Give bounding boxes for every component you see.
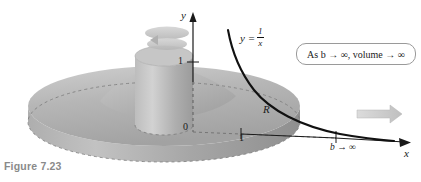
expansion-block-arrow-icon	[357, 105, 402, 123]
rotation-indicator-upper-disc	[145, 27, 189, 40]
y-tick-label-one: 1	[178, 56, 183, 66]
curve-equation-label: y = 1 x	[240, 28, 264, 49]
limit-label-b-to-infinity: b → ∞	[330, 143, 356, 153]
origin-label: 0	[183, 122, 188, 132]
y-axis-label: y	[181, 10, 186, 21]
curve-equation-numerator: 1	[257, 27, 264, 36]
x-tick-label-one: 1	[239, 133, 244, 143]
x-axis-label: x	[404, 148, 409, 159]
region-label-R: R	[263, 104, 270, 115]
volume-callout-box: As b → ∞, volume → ∞	[296, 43, 416, 65]
x-axis-arrowhead-icon	[399, 138, 411, 147]
y-axis-arrowhead-icon	[189, 12, 196, 22]
curve-equation-denominator: x	[257, 39, 264, 48]
volume-callout-text: As b → ∞, volume → ∞	[307, 49, 405, 60]
curve-equation-fraction: 1 x	[257, 27, 264, 48]
solid-of-revolution-figure	[0, 0, 421, 182]
curve-equation-lhs: y =	[240, 33, 255, 44]
figure-caption: Figure 7.23	[4, 160, 62, 172]
